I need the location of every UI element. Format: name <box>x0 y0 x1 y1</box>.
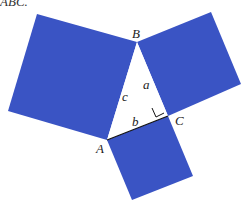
pythagorean-diagram: B A C a c b <box>0 0 249 209</box>
side-label-b: b <box>132 114 139 129</box>
side-label-a: a <box>143 77 150 92</box>
vertex-label-b: B <box>132 26 140 41</box>
vertex-label-c: C <box>175 113 184 128</box>
vertex-label-a: A <box>95 141 104 156</box>
side-label-c: c <box>122 89 128 104</box>
